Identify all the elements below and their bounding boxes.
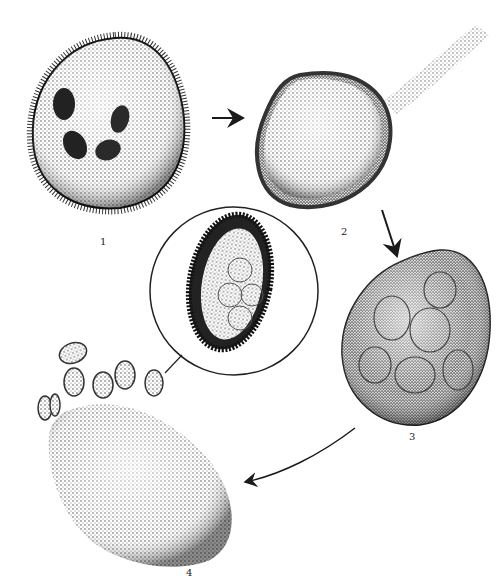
life-cycle-illustration	[0, 0, 504, 581]
stage-3-dividing-cyst	[342, 250, 490, 425]
stage-label-3: 3	[409, 431, 415, 442]
stage-label-2: 2	[341, 226, 347, 237]
stage-2-cyst	[257, 25, 490, 207]
stage-label-4: 4	[186, 567, 192, 578]
stage-4-releasing-body	[38, 339, 232, 567]
arrow-3-to-4	[245, 428, 355, 482]
stage-label-1: 1	[100, 236, 106, 247]
arrow-2-to-3	[382, 210, 397, 256]
inclusion	[53, 88, 75, 120]
inset-magnified-stage	[150, 207, 318, 375]
stage-1-ciliated-cell	[33, 38, 185, 209]
